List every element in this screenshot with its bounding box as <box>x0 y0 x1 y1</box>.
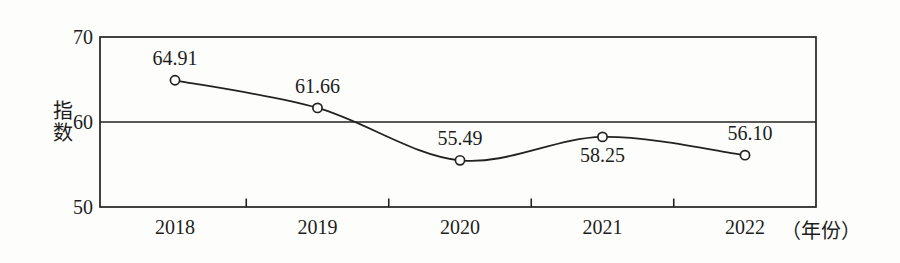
point-value-label-2020: 55.49 <box>438 127 483 150</box>
point-value-label-2019: 61.66 <box>295 74 340 97</box>
index-line-chart: 指数 70 60 50 2018 2019 2020 2021 2022 64.… <box>0 0 900 263</box>
y-tick-label-70: 70 <box>73 26 93 49</box>
point-value-label-2021: 58.25 <box>580 143 625 166</box>
x-tick-label-2018: 2018 <box>155 216 195 239</box>
point-value-label-2022: 56.10 <box>728 122 773 145</box>
x-tick-label-2022: 2022 <box>725 216 765 239</box>
x-tick-label-2020: 2020 <box>440 216 480 239</box>
x-tick-label-2019: 2019 <box>298 216 338 239</box>
y-axis-title: 指数 <box>52 100 74 145</box>
x-axis-title: （年份） <box>781 215 861 244</box>
x-tick-label-2021: 2021 <box>583 216 623 239</box>
y-tick-label-50: 50 <box>73 196 93 219</box>
point-value-label-2018: 64.91 <box>153 47 198 70</box>
y-tick-label-60: 60 <box>73 111 93 134</box>
